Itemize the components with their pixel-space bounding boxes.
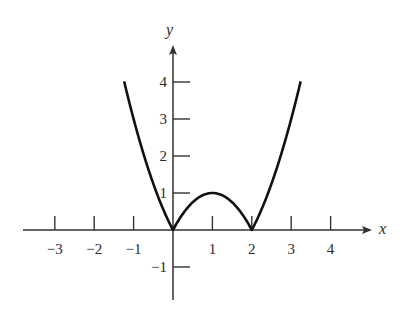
x-tick-label: −2 [86, 241, 102, 257]
function-graph: −3−2−112344321−1 x y [0, 0, 405, 310]
x-tick-label: 4 [327, 241, 335, 257]
x-tick-label: −1 [126, 241, 142, 257]
y-tick-label: 4 [160, 74, 168, 90]
y-axis-label: y [164, 21, 174, 39]
x-tick-label: 1 [209, 241, 217, 257]
x-tick-label: −3 [47, 241, 63, 257]
x-tick-label: 2 [248, 241, 256, 257]
y-tick-label: 2 [160, 148, 168, 164]
y-tick-label: 1 [160, 185, 168, 201]
y-tick-label: −1 [151, 259, 167, 275]
tick-marks [55, 82, 331, 267]
x-axis-label: x [378, 220, 386, 237]
axes [23, 45, 372, 300]
y-tick-label: 3 [160, 111, 168, 127]
tick-labels: −3−2−112344321−1 [47, 74, 335, 275]
x-tick-label: 3 [287, 241, 295, 257]
function-curve [124, 81, 301, 230]
